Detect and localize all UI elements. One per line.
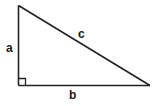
label-c: c <box>78 27 85 41</box>
right-angle-marker-icon <box>19 79 26 86</box>
right-triangle-diagram: a b c <box>0 0 158 106</box>
label-a: a <box>6 41 13 55</box>
side-c-hypotenuse <box>19 6 151 86</box>
label-b: b <box>69 88 76 102</box>
